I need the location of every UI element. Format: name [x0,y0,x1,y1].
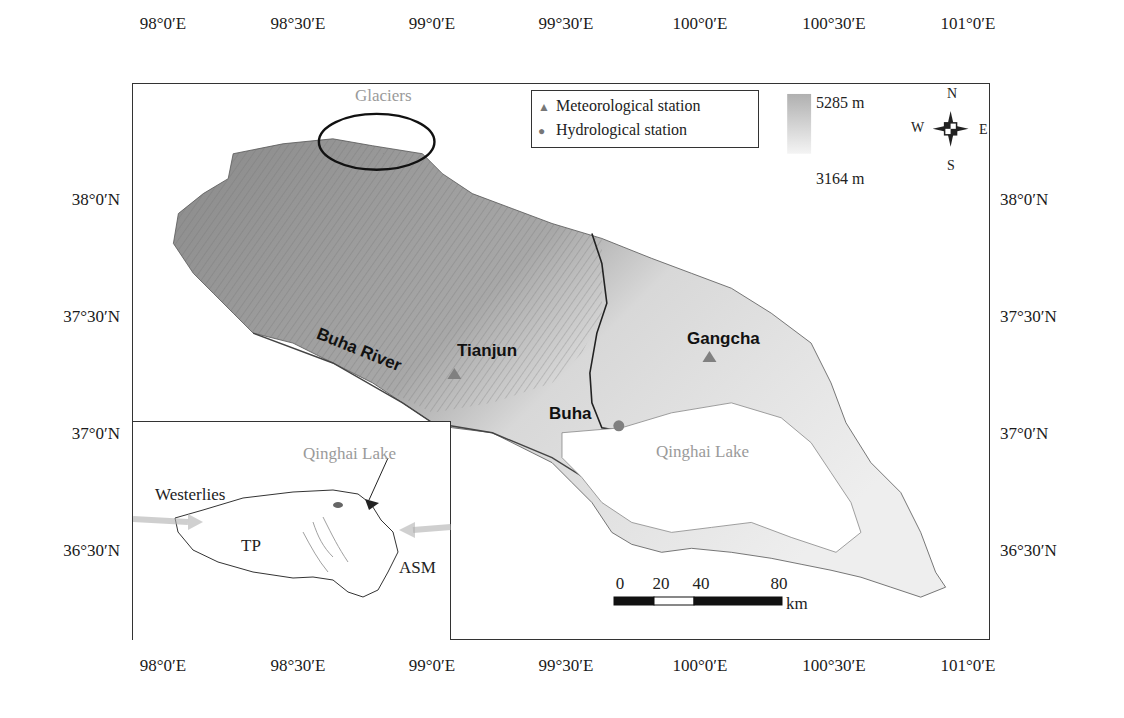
y-tick-left: 37°0′N [10,424,120,444]
map-frame: Glaciers Buha River Tianjun Buha Gangcha… [132,83,990,640]
y-tick-left: 38°0′N [10,190,120,210]
tp-label: TP [241,536,261,556]
buha-station-icon [613,420,624,431]
compass-s: S [947,158,955,174]
x-tick-bottom: 100°0′E [673,656,728,676]
elevation-max: 5285 m [816,94,864,112]
legend-meteorological: ▲ Meteorological station [538,97,700,115]
x-tick-bottom: 98°0′E [140,656,186,676]
x-tick-bottom: 98°30′E [271,656,326,676]
x-tick-top: 100°30′E [802,14,865,34]
compass-icon [933,111,969,147]
inset-map: Qinghai Lake Westerlies TP ASM [133,421,451,640]
scale-unit: km [786,594,808,614]
y-tick-right: 37°0′N [1000,424,1048,444]
buha-label: Buha [549,404,592,424]
x-tick-top: 99°30′E [539,14,594,34]
asm-label: ASM [399,558,436,578]
gangcha-label: Gangcha [687,329,760,349]
compass-e: E [979,122,988,138]
x-tick-bottom: 100°30′E [802,656,865,676]
x-tick-top: 101°0′E [941,14,996,34]
inset-qinghai-lake-label: Qinghai Lake [303,444,396,464]
westerlies-label: Westerlies [155,485,225,505]
elevation-min: 3164 m [816,170,864,188]
x-tick-bottom: 101°0′E [941,656,996,676]
compass-w: W [911,120,924,136]
qinghai-lake-label: Qinghai Lake [656,442,749,462]
circle-icon: ● [538,124,552,139]
y-tick-right: 37°30′N [1000,307,1057,327]
y-tick-right: 36°30′N [1000,541,1057,561]
legend: ▲ Meteorological station ● Hydrological … [531,90,759,148]
x-tick-top: 100°0′E [673,14,728,34]
triangle-icon: ▲ [538,100,552,115]
y-tick-right: 38°0′N [1000,190,1048,210]
x-tick-bottom: 99°30′E [539,656,594,676]
y-tick-left: 37°30′N [10,307,120,327]
x-tick-bottom: 99°0′E [409,656,455,676]
tibetan-plateau-outline [133,422,451,641]
glaciers-label: Glaciers [355,86,412,106]
x-tick-top: 99°0′E [409,14,455,34]
tianjun-label: Tianjun [457,341,517,361]
scale-bar: 0 20 40 80 km [613,574,843,624]
compass-n: N [947,86,957,102]
y-tick-left: 36°30′N [10,541,120,561]
legend-hydrological: ● Hydrological station [538,121,687,139]
x-tick-top: 98°0′E [140,14,186,34]
x-tick-top: 98°30′E [271,14,326,34]
